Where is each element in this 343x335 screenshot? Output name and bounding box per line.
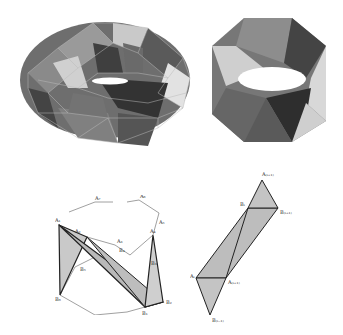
label-B4: B₄ [119, 247, 125, 253]
label-A-i-plus-1-top: A₍ᵢ₊₁₎ [261, 171, 274, 177]
label-B-i-plus-1: B₍ᵢ₊₁₎ [280, 209, 292, 215]
label-B6: B₆ [55, 296, 61, 302]
label-B-i: Bᵢ [240, 201, 245, 207]
strip-detail-diagram: A₍ᵢ₊₁₎ Bᵢ B₍ᵢ₊₁₎ Aᵢ A₍ᵢ₊₁₎ B₍ᵢ₋₁₎ [190, 170, 310, 335]
label-A6: A₆ [139, 195, 146, 199]
label-B3: B₃ [151, 260, 157, 266]
band-construction-diagram: A₇ A₆ A₅ A₁ A₂ A₃ A₄ B₄ B₃ B₅ B₆ B₇ B₁ B… [55, 195, 205, 315]
twisted-band-polyhedron [206, 18, 330, 143]
label-A-i: Aᵢ [190, 273, 195, 279]
label-A7: A₇ [94, 195, 101, 201]
label-A3: A₃ [116, 238, 123, 244]
label-B1: B₁ [142, 310, 148, 315]
label-A4: A₄ [149, 228, 156, 234]
label-A5: A₅ [158, 219, 165, 225]
label-B-i-minus-1: B₍ᵢ₋₁₎ [212, 317, 224, 323]
label-A1: A₁ [55, 217, 61, 223]
label-B5: B₅ [80, 266, 86, 272]
label-A-i-plus-1: A₍ᵢ₊₁₎ [227, 279, 240, 285]
label-B2: B₂ [166, 299, 172, 305]
label-A2: A₂ [74, 228, 81, 234]
torus-mesh [18, 18, 193, 153]
